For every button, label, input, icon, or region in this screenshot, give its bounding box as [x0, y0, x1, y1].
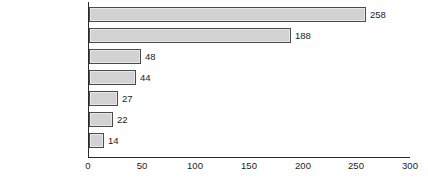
- bar: [89, 112, 113, 127]
- bar: [89, 91, 118, 106]
- x-tick-label: 300: [395, 160, 425, 172]
- x-tick-label: 250: [341, 160, 371, 172]
- bar: [89, 28, 291, 43]
- value-label: 188: [295, 28, 311, 43]
- value-label: 48: [145, 49, 156, 64]
- x-tick-label: 100: [180, 160, 210, 172]
- value-label: 44: [140, 70, 151, 85]
- x-tick-label: 50: [127, 160, 157, 172]
- bar: [89, 7, 366, 22]
- bar: [89, 70, 136, 85]
- x-tick-label: 0: [73, 160, 103, 172]
- x-axis-line: [88, 157, 410, 158]
- x-tick-label: 150: [234, 160, 264, 172]
- bar-chart: China 258 Middle East 188 India 48 South…: [0, 0, 428, 187]
- x-tick-label: 200: [288, 160, 318, 172]
- bar: [89, 49, 141, 64]
- clipped-caption: [4, 180, 424, 186]
- value-label: 27: [122, 91, 133, 106]
- value-label: 14: [108, 133, 119, 148]
- value-label: 258: [370, 7, 386, 22]
- value-label: 22: [117, 112, 128, 127]
- bar: [89, 133, 104, 148]
